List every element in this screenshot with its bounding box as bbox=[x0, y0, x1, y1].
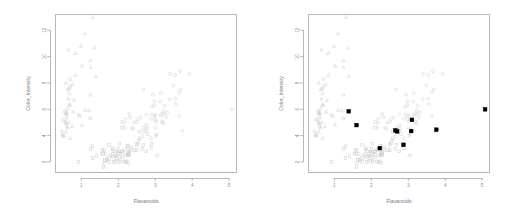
svg-text:1: 1 bbox=[333, 183, 336, 188]
right-panel: 1234524681012FlavanoidsColor_Intensity bbox=[253, 0, 506, 219]
svg-text:10: 10 bbox=[295, 54, 300, 60]
y-axis-title: Color_Intensity bbox=[278, 76, 284, 111]
figure-container: 1234524681012FlavanoidsColor_Intensity 1… bbox=[0, 0, 506, 219]
series-highlighted-points bbox=[347, 107, 487, 150]
left-panel-svg: 1234524681012FlavanoidsColor_Intensity bbox=[0, 0, 253, 219]
svg-text:2: 2 bbox=[117, 183, 120, 188]
y-axis-title: Color_Intensity bbox=[25, 76, 31, 111]
svg-text:2: 2 bbox=[295, 160, 300, 163]
svg-text:5: 5 bbox=[481, 183, 484, 188]
svg-text:12: 12 bbox=[42, 27, 47, 33]
right-panel-highlights bbox=[347, 107, 487, 150]
series-class-2 bbox=[77, 117, 158, 168]
svg-text:6: 6 bbox=[42, 108, 47, 111]
series-class-1 bbox=[121, 70, 234, 140]
svg-text:4: 4 bbox=[42, 134, 47, 137]
svg-text:10: 10 bbox=[42, 54, 47, 60]
left-panel: 1234524681012FlavanoidsColor_Intensity bbox=[0, 0, 253, 219]
svg-text:3: 3 bbox=[154, 183, 157, 188]
left-panel-points bbox=[60, 15, 233, 168]
series-class-3 bbox=[60, 15, 97, 139]
right-panel-svg: 1234524681012FlavanoidsColor_Intensity bbox=[253, 0, 506, 219]
svg-text:4: 4 bbox=[191, 183, 194, 188]
svg-text:2: 2 bbox=[42, 160, 47, 163]
right-panel-frame bbox=[309, 15, 490, 173]
left-panel-frame bbox=[56, 15, 237, 173]
svg-text:6: 6 bbox=[295, 108, 300, 111]
svg-text:8: 8 bbox=[42, 81, 47, 84]
x-axis-title: Flavanoids bbox=[386, 198, 411, 204]
series-class-2 bbox=[330, 117, 411, 168]
svg-text:4: 4 bbox=[444, 183, 447, 188]
svg-text:3: 3 bbox=[407, 183, 410, 188]
svg-text:2: 2 bbox=[370, 183, 373, 188]
svg-text:8: 8 bbox=[295, 81, 300, 84]
series-class-1 bbox=[374, 70, 487, 140]
svg-text:5: 5 bbox=[228, 183, 231, 188]
svg-text:4: 4 bbox=[295, 134, 300, 137]
svg-text:1: 1 bbox=[80, 183, 83, 188]
series-class-3 bbox=[313, 15, 350, 139]
x-axis-title: Flavanoids bbox=[133, 198, 158, 204]
right-panel-points bbox=[313, 15, 486, 168]
svg-text:12: 12 bbox=[295, 27, 300, 33]
